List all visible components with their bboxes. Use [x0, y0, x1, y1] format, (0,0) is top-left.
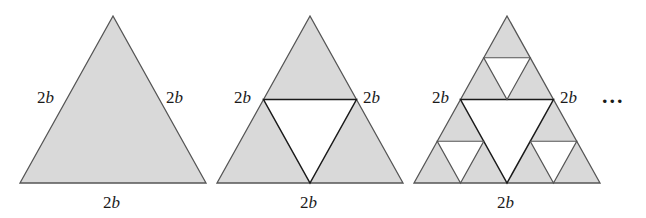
sierpinski-figure: 2b 2b 2b 2b 2b 2b 2b 2b 2b ...: [0, 0, 646, 218]
stage-0-left-label: 2b: [37, 88, 54, 107]
stage-1-right-label: 2b: [363, 88, 380, 107]
stage-0-bottom-label: 2b: [103, 193, 120, 212]
stage-1-bottom-label: 2b: [300, 193, 317, 212]
stage-2-right-label: 2b: [560, 88, 577, 107]
stage-2-triangle: 2b 2b 2b: [414, 16, 600, 212]
stage-2-left-label: 2b: [432, 88, 449, 107]
continuation-ellipsis: ...: [602, 83, 625, 108]
stage-0-right-label: 2b: [166, 88, 183, 107]
stage-2-bottom-label: 2b: [497, 193, 514, 212]
stage-1-triangle: 2b 2b 2b: [217, 16, 403, 212]
stage-1-left-label: 2b: [234, 88, 251, 107]
stage-0-triangle: 2b 2b 2b: [20, 16, 206, 212]
